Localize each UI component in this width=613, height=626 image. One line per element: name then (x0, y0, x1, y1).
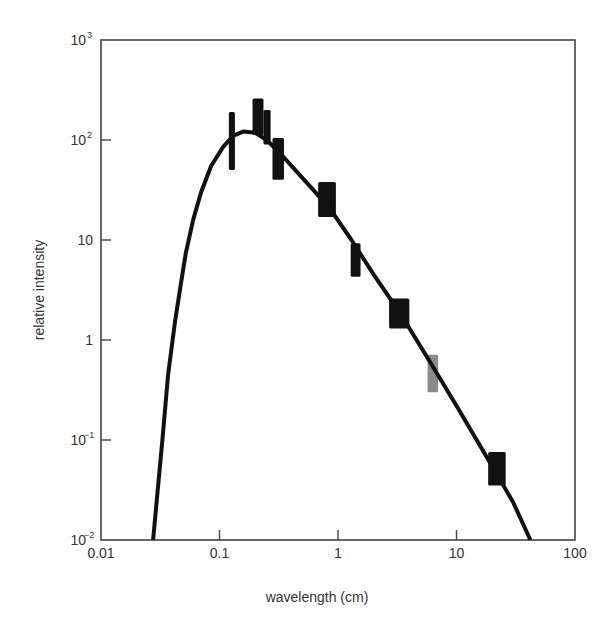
y-tick-exponent: 2 (87, 130, 92, 140)
measurement-box (488, 452, 506, 486)
x-tick-label: 1 (334, 545, 342, 561)
x-axis-ticks: 0.010.1110100 (87, 530, 587, 561)
x-tick-label: 0.01 (87, 545, 114, 561)
y-axis-title: relative intensity (31, 240, 47, 340)
y-tick-label: 10 (70, 32, 86, 48)
y-tick-exponent: 3 (87, 30, 92, 40)
measurement-box (272, 138, 283, 180)
y-tick-label: 1 (85, 332, 93, 348)
measurement-boxes (229, 99, 506, 486)
x-tick-label: 100 (563, 545, 587, 561)
x-axis-title: wavelength (cm) (265, 589, 369, 605)
blackbody-curve (153, 131, 530, 540)
x-tick-label: 10 (449, 545, 465, 561)
curve-line (153, 131, 530, 540)
y-tick-exponent: −2 (84, 530, 94, 540)
x-tick-label: 0.1 (210, 545, 230, 561)
chart: 0.010.1110100 10−210−1110102103 waveleng… (0, 0, 613, 626)
y-tick-label: 10 (70, 132, 86, 148)
y-tick-label: 10 (77, 232, 93, 248)
y-tick-exponent: −1 (84, 430, 94, 440)
y-axis-ticks: 10−210−1110102103 (70, 30, 111, 548)
measurement-box (253, 99, 264, 136)
